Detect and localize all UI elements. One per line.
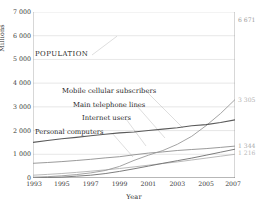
- x-axis-ticks: 1993 1995 1997 1999 2001 2003 2005 2007: [33, 181, 235, 193]
- series-annotation-internet-users: Internet users: [82, 115, 131, 122]
- x-tick-label: 2007: [225, 181, 241, 187]
- series-annotation-mobile-cellular-subscribers: Mobile cellular subscribers: [62, 88, 156, 95]
- chart-svg: [33, 12, 235, 178]
- x-tick-label: 2005: [198, 181, 214, 187]
- y-tick-label: 5 000: [13, 56, 31, 62]
- y-tick-label: 2 000: [13, 128, 31, 134]
- y-tick-label: 1 000: [13, 151, 31, 157]
- y-tick-label: 3 000: [13, 104, 31, 110]
- axis-lines: [33, 12, 235, 178]
- series-annotation-main-telephone-lines: Main telephone lines: [73, 102, 145, 109]
- y-axis-ticks: 7 000 6 000 5 000 4 000 3 000 2 000 1 00…: [0, 12, 31, 178]
- end-value-internet-users: 1 216: [238, 150, 255, 156]
- series-annotation-personal-computers: Personal computers: [35, 129, 103, 136]
- x-tick-label: 2001: [141, 181, 157, 187]
- plot-area: POPULATION Mobile cellular subscribers M…: [33, 12, 235, 178]
- end-value-mobile-cellular-subscribers: 3 305: [238, 97, 255, 103]
- x-tick-label: 1999: [112, 181, 128, 187]
- x-tick-label: 2003: [169, 181, 185, 187]
- data-series: [33, 100, 235, 178]
- series-line-personal-computers: [33, 154, 235, 175]
- y-tick-label: 6 000: [13, 33, 31, 39]
- leader-lines: [92, 36, 183, 157]
- y-tick-label: 7 000: [13, 9, 31, 15]
- x-tick-label: 1997: [83, 181, 99, 187]
- chart-container: Millions 7 000 6 000 5 000 4 000 3 000 2…: [0, 0, 274, 220]
- y-tick-label: 4 000: [13, 80, 31, 86]
- series-annotation-population: POPULATION: [35, 51, 88, 58]
- x-axis-title: Year: [33, 193, 235, 201]
- x-tick-label: 1993: [26, 181, 42, 187]
- end-value-population: 6 671: [238, 17, 255, 23]
- x-tick-label: 1995: [54, 181, 70, 187]
